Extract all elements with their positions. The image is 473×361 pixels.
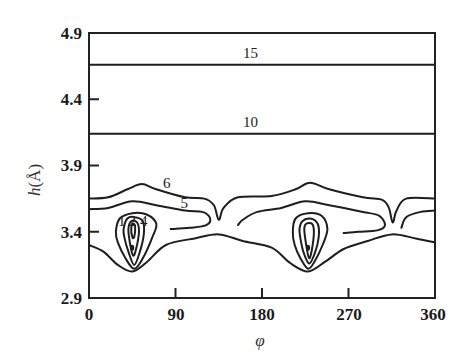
- x-tick-label: 180: [249, 305, 275, 324]
- y-axis-unit: (Å): [25, 164, 44, 188]
- flat-contour-lines: [89, 65, 435, 134]
- contour-level-label: 2: [129, 213, 137, 229]
- contour-level-label: 1: [118, 213, 126, 229]
- svg-text:h(Å): h(Å): [25, 164, 44, 196]
- y-tick-label: 4.4: [61, 90, 83, 109]
- minimum-marker: [130, 245, 134, 251]
- contour-level-label: 6: [163, 175, 171, 191]
- x-tick-label: 360: [420, 305, 446, 324]
- x-tick-label: 90: [168, 305, 185, 324]
- y-tick-label: 3.4: [61, 223, 83, 242]
- x-axis-title: φ: [255, 331, 264, 350]
- contour-line-level-4: [89, 234, 435, 271]
- contour-line-level-4: [293, 213, 328, 269]
- x-tick-label: 0: [85, 305, 94, 324]
- contour-chart: 2.9 3.4 3.9 4.4 4.9 0 90 180 270 360 φ h…: [0, 0, 473, 361]
- y-tick-label: 4.9: [61, 24, 82, 43]
- contour-level-label: 5: [180, 195, 188, 211]
- plot-frame: [89, 33, 435, 298]
- contour-line-level-5: [401, 211, 435, 228]
- y-tick-label: 3.9: [61, 156, 82, 175]
- contour-level-label: 4: [140, 213, 148, 229]
- y-axis-title: h(Å): [25, 164, 44, 196]
- y-axis-var: h: [25, 188, 44, 197]
- contour-line-level-5: [238, 201, 385, 233]
- contour-level-label: 15: [243, 45, 258, 61]
- contour-line-level-1: [304, 223, 314, 258]
- x-tick-label: 270: [336, 305, 362, 324]
- contour-level-label: 10: [243, 114, 258, 130]
- minimum-marker: [306, 245, 310, 251]
- y-tick-label: 2.9: [61, 289, 82, 308]
